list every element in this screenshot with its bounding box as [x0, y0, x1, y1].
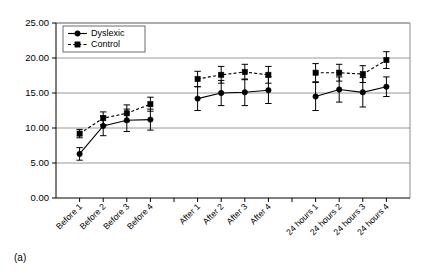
- data-group: [76, 52, 389, 161]
- data-point-dyslexic-11: [383, 77, 389, 97]
- ytick-label-10.00: 10.00: [25, 122, 49, 133]
- panel-caption: (a): [14, 252, 26, 264]
- legend-label-control: Control: [91, 39, 120, 49]
- xtick-label-after-2: After 2: [201, 201, 226, 226]
- data-point-control-8: [312, 64, 318, 82]
- marker-circle-dyslexic: [313, 94, 318, 99]
- data-point-control-10: [360, 66, 366, 83]
- ytick-label-20.00: 20.00: [25, 52, 49, 63]
- line-chart: 0.005.0010.0015.0020.0025.00Before 1Befo…: [0, 0, 430, 276]
- data-point-control-4: [194, 71, 200, 86]
- marker-square-control: [219, 72, 224, 77]
- marker-circle-dyslexic: [337, 87, 342, 92]
- data-point-control-1: [100, 112, 106, 125]
- marker-square-control: [148, 102, 153, 107]
- data-point-dyslexic-0: [76, 148, 82, 161]
- series-line-dyslexic-before: [80, 120, 151, 154]
- data-point-dyslexic-3: [147, 109, 153, 130]
- figure-panel: 0.005.0010.0015.0020.0025.00Before 1Befo…: [0, 0, 430, 276]
- xtick-label-after-4: After 4: [248, 201, 273, 226]
- legend-marker-circle: [75, 31, 80, 36]
- marker-circle-dyslexic: [77, 151, 82, 156]
- series-line-dyslexic-after: [198, 90, 269, 98]
- marker-square-control: [242, 69, 247, 74]
- legend: DyslexicControl: [63, 26, 145, 52]
- xtick-label-before-4: Before 4: [125, 201, 155, 231]
- xtick-label-after-1: After 1: [177, 201, 202, 226]
- series-line-control-after: [198, 72, 269, 79]
- data-point-dyslexic-6: [242, 79, 248, 106]
- ytick-label-5.00: 5.00: [31, 157, 50, 168]
- marker-circle-dyslexic: [195, 96, 200, 101]
- marker-circle-dyslexic: [266, 88, 271, 93]
- legend-marker-square: [75, 42, 80, 47]
- marker-square-control: [384, 58, 389, 63]
- series-line-control-before: [80, 104, 151, 133]
- marker-square-control: [77, 131, 82, 136]
- data-point-control-7: [265, 66, 271, 83]
- series-line-dyslexic-24-hours: [316, 87, 387, 97]
- marker-square-control: [101, 116, 106, 121]
- data-point-control-9: [336, 64, 342, 81]
- data-point-control-11: [383, 52, 389, 69]
- marker-square-control: [195, 76, 200, 81]
- legend-label-dyslexic: Dyslexic: [91, 28, 125, 38]
- marker-circle-dyslexic: [242, 90, 247, 95]
- marker-circle-dyslexic: [384, 84, 389, 89]
- ytick-label-0.00: 0.00: [31, 192, 50, 203]
- xtick-label-after-3: After 3: [224, 201, 249, 226]
- marker-circle-dyslexic: [219, 90, 224, 95]
- marker-square-control: [360, 72, 365, 77]
- marker-square-control: [337, 70, 342, 75]
- marker-square-control: [266, 72, 271, 77]
- data-point-dyslexic-5: [218, 80, 224, 105]
- ytick-label-15.00: 15.00: [25, 87, 49, 98]
- data-point-control-0: [76, 129, 82, 137]
- data-point-dyslexic-4: [194, 87, 200, 111]
- ytick-label-25.00: 25.00: [25, 17, 49, 28]
- marker-circle-dyslexic: [148, 117, 153, 122]
- series-line-control-24-hours: [316, 60, 387, 74]
- marker-square-control: [124, 111, 129, 116]
- marker-circle-dyslexic: [360, 90, 365, 95]
- marker-square-control: [313, 70, 318, 75]
- data-point-dyslexic-8: [312, 83, 318, 111]
- data-point-control-6: [242, 64, 248, 79]
